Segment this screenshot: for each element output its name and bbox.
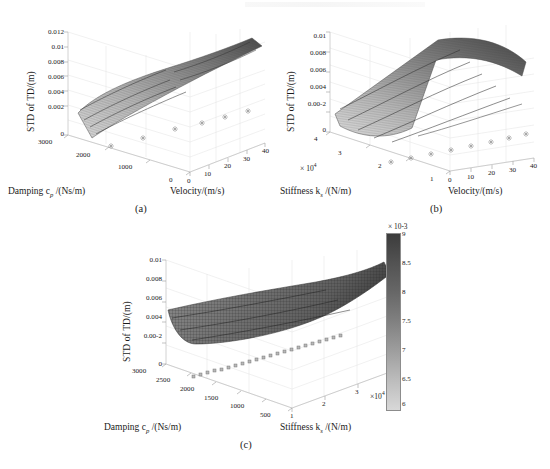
panel-b-xtick-left: 2 xyxy=(378,162,382,170)
panel-c-xtick-left: 2500 xyxy=(156,376,170,384)
figure-root: STD of TD/(m) 0.012 0.01 0.008 0.006 0.0… xyxy=(0,0,550,469)
panel-b-xtick-right: 20 xyxy=(488,169,495,177)
colorbar-tick: 7 xyxy=(402,346,406,354)
panel-a-left-axis-title-main: Damping c xyxy=(8,186,50,196)
panel-b-right-axis-title: Velocity/(m/s) xyxy=(448,186,502,196)
panel-b-xtick-left: 4 xyxy=(314,135,318,143)
panel-c-surface xyxy=(168,262,390,344)
panel-a-left-axis-title-unit: /(Ns/m) xyxy=(53,186,85,196)
panel-c-right-axis-title: Stiffness ks /(N/m) xyxy=(280,422,351,434)
panel-a-right-axis-title: Velocity/(m/s) xyxy=(170,186,224,196)
panel-b-left-axis-exponent: × 104 xyxy=(300,162,317,173)
panel-b-xtick-right: 0 xyxy=(448,176,452,184)
panel-a-xtick-right: 0 xyxy=(187,177,191,185)
colorbar-tick: 6 xyxy=(402,400,406,408)
panel-b-left-axis-title-unit: /(N/m) xyxy=(323,186,351,196)
panel-a-xtick-right: 30 xyxy=(243,155,250,163)
panel-c-z-axis-ticks xyxy=(162,260,166,364)
panel-c-xtick-left: 1000 xyxy=(230,402,244,410)
colorbar-tick: 9 xyxy=(402,230,406,238)
panel-b-xtick-right: 30 xyxy=(509,166,516,174)
panel-c-left-axis-title: Damping cp /(Ns/m) xyxy=(104,422,181,434)
colorbar: × 10-3 9 8.5 8 7.5 7 6.5 6 xyxy=(386,233,446,423)
panel-b: STD of TD/(m) 0.01 0.008 0.006 0.004 0.0… xyxy=(278,10,550,220)
panel-c-xtick-left: 1500 xyxy=(204,394,218,402)
panel-b-left-axis-ticks xyxy=(326,132,450,174)
panel-c-xtick-right: 1 xyxy=(290,412,294,420)
panel-a-xtick-left: 0 xyxy=(169,176,173,184)
panel-a-xtick-left: 1000 xyxy=(118,163,132,171)
panel-c-right-axis-exponent: ×104 xyxy=(370,390,385,401)
panel-b-z-axis-ticks xyxy=(326,32,330,132)
colorbar-tick: 8 xyxy=(402,288,406,296)
panel-b-exponent-sup: 4 xyxy=(314,162,317,168)
colorbar-tick: 8.5 xyxy=(402,259,411,267)
page-header-rule xyxy=(245,2,425,7)
panel-c-xtick-left: 500 xyxy=(260,411,271,419)
panel-c-right-axis-title-unit: /(N/m) xyxy=(323,422,351,432)
panel-c-exponent-base: ×10 xyxy=(370,392,382,401)
panel-c-right-axis-title-main: Stiffness k xyxy=(280,422,320,432)
panel-a-right-axis-ticks xyxy=(190,143,265,176)
panel-c-left-axis-title-main: Damping c xyxy=(104,422,146,432)
panel-c-caption: (c) xyxy=(240,439,252,450)
panel-b-left-axis-title: Stiffness ks /(N/m) xyxy=(280,186,351,198)
panel-c-xtick-right: 2 xyxy=(322,400,326,408)
panel-c-xtick-left: 2000 xyxy=(180,385,194,393)
panel-b-xtick-left: 1 xyxy=(430,175,434,183)
colorbar-gradient xyxy=(386,233,401,411)
panel-a-xtick-right: 20 xyxy=(224,162,231,170)
panel-b-surface xyxy=(335,38,526,142)
panel-b-xtick-right: 10 xyxy=(467,173,474,181)
panel-b-left-axis-title-main: Stiffness k xyxy=(280,186,320,196)
panel-b-marker-points xyxy=(388,131,529,165)
panel-c-exponent-sup: 4 xyxy=(382,390,385,396)
panel-a-z-axis-ticks xyxy=(64,32,68,135)
panel-a-xtick-left: 2000 xyxy=(76,151,90,159)
panel-c: STD of TD/(m) 0.01 0.008 0.006 0.004 0.0… xyxy=(100,232,400,469)
panel-b-caption: (b) xyxy=(430,203,442,214)
panel-a-xtick-left: 3000 xyxy=(38,138,52,146)
panel-c-left-axis-title-unit: /(Ns/m) xyxy=(149,422,181,432)
colorbar-tick: 6.5 xyxy=(402,375,411,383)
panel-a-xtick-right: 40 xyxy=(262,147,269,155)
panel-a-xtick-right: 10 xyxy=(204,170,211,178)
panel-b-xtick-left: 3 xyxy=(338,149,342,157)
panel-a-surface xyxy=(78,38,262,138)
panel-a-left-axis-title: Damping cp /(Ns/m) xyxy=(8,186,85,198)
panel-a-caption: (a) xyxy=(135,203,147,214)
panel-a: STD of TD/(m) 0.012 0.01 0.008 0.006 0.0… xyxy=(0,10,275,220)
colorbar-tick: 7.5 xyxy=(402,317,411,325)
panel-c-xtick-right: 3 xyxy=(355,388,359,396)
panel-b-xtick-right: 40 xyxy=(530,162,537,170)
panel-c-xtick-left: 3000 xyxy=(132,367,146,375)
panel-b-exponent-base: × 10 xyxy=(300,164,314,173)
